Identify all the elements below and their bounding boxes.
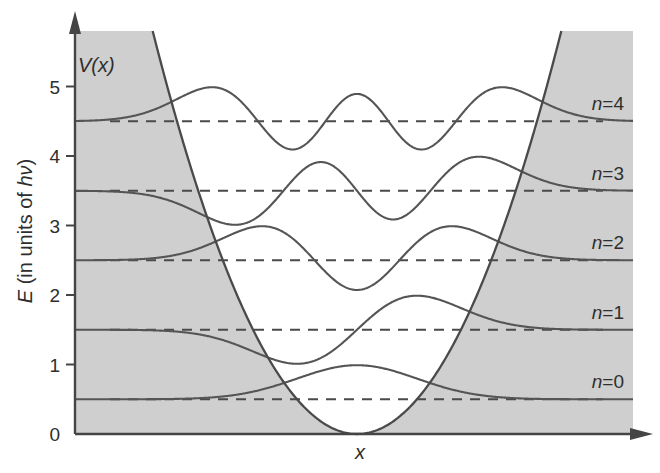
y-tick-label: 0 <box>49 424 60 445</box>
level-label-n0: n=0 <box>592 371 624 392</box>
y-tick-label: 3 <box>49 216 60 237</box>
y-tick-label: 2 <box>49 285 60 306</box>
x-axis-label: x <box>354 441 366 463</box>
level-label-n2: n=2 <box>592 232 624 253</box>
harmonic-oscillator-figure: 0 1 2 3 4 5 n=0 n=1 n=2 n=3 n=4 V(x) x E… <box>0 0 660 473</box>
level-label-n3: n=3 <box>592 163 624 184</box>
y-tick-label: 1 <box>49 355 60 376</box>
y-tick-marks <box>66 87 75 365</box>
y-tick-label: 5 <box>49 77 60 98</box>
potential-label: V(x) <box>78 54 115 76</box>
level-label-n4: n=4 <box>592 93 625 114</box>
forbidden-region-shading <box>75 31 633 434</box>
y-tick-labels: 0 1 2 3 4 5 <box>49 77 60 446</box>
level-label-n1: n=1 <box>592 302 624 323</box>
x-axis-arrowhead <box>630 428 653 440</box>
y-tick-label: 4 <box>49 146 60 167</box>
y-axis-label: E (in units of hν) <box>14 159 36 304</box>
y-axis-arrowhead <box>69 11 81 34</box>
